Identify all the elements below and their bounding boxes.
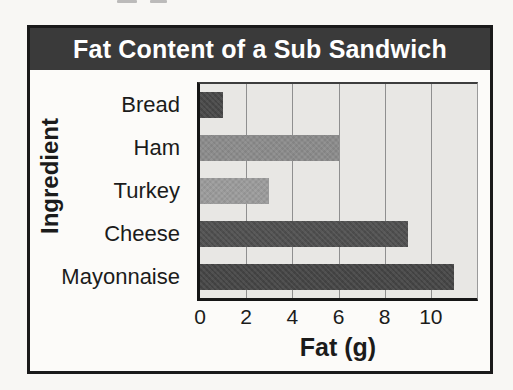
chart-title-banner: Fat Content of a Sub Sandwich [30, 28, 490, 70]
category-labels: BreadHamTurkeyCheeseMayonnaise [30, 84, 189, 298]
x-tick-8: 8 [379, 305, 391, 329]
bar-bread [200, 92, 223, 118]
x-axis-ticks: 0246810 [200, 305, 477, 331]
category-label-bread: Bread [30, 84, 189, 127]
chart-title: Fat Content of a Sub Sandwich [73, 35, 447, 64]
x-tick-10: 10 [419, 305, 442, 329]
category-label-turkey: Turkey [30, 170, 189, 213]
x-tick-0: 0 [194, 305, 206, 329]
artifact-dash [150, 0, 167, 3]
x-tick-6: 6 [333, 305, 345, 329]
plot-area [197, 82, 478, 301]
artifact-dash [117, 0, 137, 3]
x-tick-2: 2 [240, 305, 252, 329]
bar-ham [200, 135, 339, 161]
x-axis-label: Fat (g) [300, 333, 376, 362]
page: Fat Content of a Sub Sandwich Ingredient… [0, 0, 513, 390]
category-label-cheese: Cheese [30, 212, 189, 255]
bar-mayonnaise [200, 264, 454, 290]
category-label-ham: Ham [30, 127, 189, 170]
bar-turkey [200, 178, 269, 204]
category-label-mayonnaise: Mayonnaise [30, 255, 189, 298]
figure-frame: Fat Content of a Sub Sandwich Ingredient… [27, 25, 493, 374]
bar-cheese [200, 221, 408, 247]
x-tick-4: 4 [286, 305, 298, 329]
